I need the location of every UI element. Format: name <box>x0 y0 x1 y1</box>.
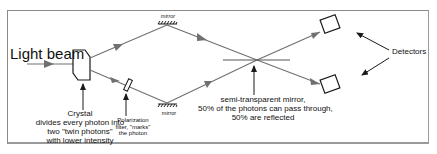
top-mirror-label: mirror <box>157 13 179 19</box>
detector-lower <box>320 75 340 94</box>
crystal-caption-line4: with lower intensity <box>30 137 130 146</box>
upper-beam-arrow-1 <box>113 44 123 51</box>
semi-mirror-caption-line3: 50% are reflected <box>198 114 328 123</box>
detectors-pointer-upper <box>357 33 389 50</box>
detector-lower-arrow <box>310 78 320 85</box>
polarization-caption: Polarization filter, "marks" the photon <box>112 117 154 137</box>
detector-upper-arrow <box>311 32 320 39</box>
bottom-mirror <box>158 104 177 107</box>
bottom-mirror-label: mirror <box>158 110 180 116</box>
semi-mirror-caption: semi-transparent mirror, 50% of the phot… <box>198 96 328 123</box>
detectors-label: Detectors <box>392 48 426 57</box>
upper-beam-path <box>90 25 320 60</box>
light-beam-label: Light beam <box>10 46 84 63</box>
polarization-caption-line2: filter, "marks" <box>112 124 154 131</box>
top-mirror <box>158 21 177 24</box>
polarization-caption-line1: Polarization <box>112 117 154 124</box>
polarization-caption-line3: the photon <box>112 130 154 137</box>
detectors-pointer-lower <box>362 58 389 75</box>
upper-beam-arrow-2 <box>197 33 207 41</box>
detector-upper <box>320 15 340 34</box>
